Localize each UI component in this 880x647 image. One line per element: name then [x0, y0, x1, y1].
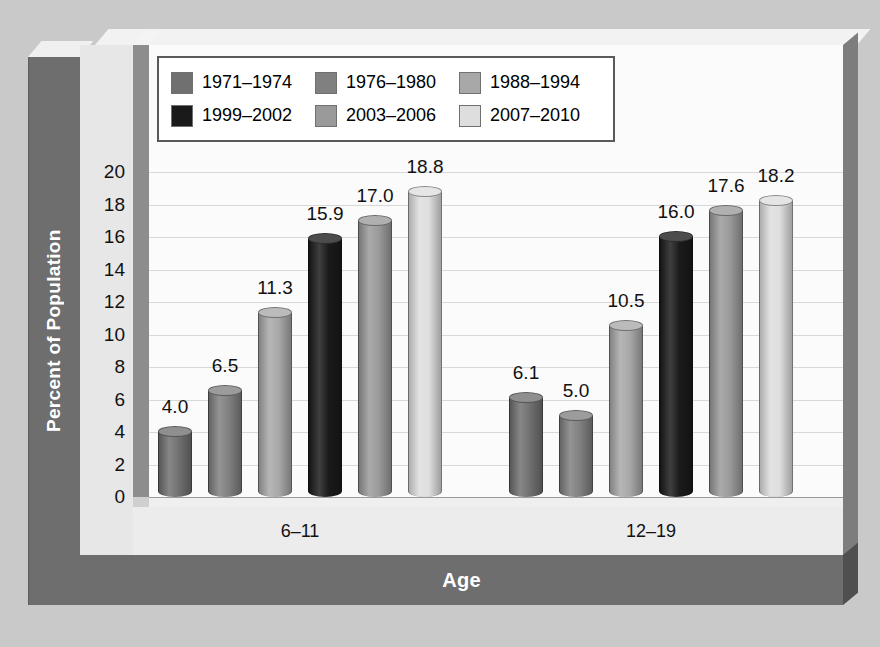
- y-axis-tick-label: 16: [81, 226, 125, 248]
- bar: 6.5: [208, 391, 242, 497]
- bar: 10.5: [609, 326, 643, 497]
- bar: 11.3: [258, 313, 292, 497]
- frame-top-bevel: [95, 29, 870, 45]
- category-axis-band: 6–1112–19: [133, 507, 843, 555]
- y-axis-tick-label: 4: [81, 421, 125, 443]
- bar-body: [659, 237, 693, 497]
- legend-item: 1988–1994: [459, 72, 603, 94]
- bar-cap: [408, 186, 442, 197]
- category-axis-label: 6–11: [281, 521, 320, 542]
- legend-item: 2007–2010: [459, 105, 603, 127]
- y-axis-tick-label: 14: [81, 259, 125, 281]
- legend-item: 1999–2002: [171, 105, 315, 127]
- bar-body: [158, 432, 192, 497]
- bar-cap: [709, 205, 743, 216]
- category-axis-label: 12–19: [626, 521, 676, 542]
- bar-body: [258, 313, 292, 497]
- frame-right-bevel: [843, 32, 858, 605]
- bar-body: [358, 221, 392, 497]
- legend-label: 2003–2006: [346, 105, 436, 126]
- bar-value-label: 5.0: [563, 380, 589, 402]
- bar-value-label: 18.8: [407, 156, 444, 178]
- legend-swatch-icon: [315, 72, 337, 94]
- bar: 17.6: [709, 211, 743, 497]
- bar: 18.2: [759, 201, 793, 497]
- legend-label: 2007–2010: [490, 105, 580, 126]
- bar: 15.9: [308, 239, 342, 497]
- bar-cap: [559, 410, 593, 421]
- legend-label: 1988–1994: [490, 72, 580, 93]
- bar-value-label: 18.2: [758, 165, 795, 187]
- bar: 17.0: [358, 221, 392, 497]
- bar: 4.0: [158, 432, 192, 497]
- bar: 6.1: [509, 398, 543, 497]
- bar-value-label: 17.0: [357, 185, 394, 207]
- bar-cap: [509, 392, 543, 403]
- bar: 16.0: [659, 237, 693, 497]
- legend-row: 1999–20022003–20062007–2010: [171, 99, 603, 132]
- gridline: [149, 172, 843, 173]
- bar-cap: [308, 233, 342, 244]
- bar-value-label: 6.1: [513, 362, 539, 384]
- bar-value-label: 16.0: [658, 201, 695, 223]
- bar: 5.0: [559, 416, 593, 497]
- bar-value-label: 4.0: [162, 396, 188, 418]
- legend-swatch-icon: [459, 72, 481, 94]
- bar-cap: [158, 426, 192, 437]
- legend-label: 1999–2002: [202, 105, 292, 126]
- y-axis-tick-label: 6: [81, 389, 125, 411]
- bar-body: [509, 398, 543, 497]
- bar-body: [609, 326, 643, 497]
- plot-floor-left-wedge: [133, 497, 149, 507]
- bar-body: [709, 211, 743, 497]
- bar-cap: [358, 215, 392, 226]
- legend-row: 1971–19741976–19801988–1994: [171, 66, 603, 99]
- bar-value-label: 6.5: [212, 355, 238, 377]
- plot-wall-strip: [133, 45, 149, 505]
- y-axis-tick-label: 20: [81, 161, 125, 183]
- y-axis-tick-label: 2: [81, 454, 125, 476]
- legend-swatch-icon: [315, 105, 337, 127]
- y-axis-tick-panel: 20181614121086420: [80, 45, 133, 605]
- legend-item: 2003–2006: [315, 105, 459, 127]
- gridline: [149, 205, 843, 206]
- bar-body: [208, 391, 242, 497]
- bar-body: [408, 192, 442, 498]
- bar-cap: [659, 231, 693, 242]
- legend-label: 1976–1980: [346, 72, 436, 93]
- legend-swatch-icon: [459, 105, 481, 127]
- y-axis-tick-label: 18: [81, 194, 125, 216]
- legend-label: 1971–1974: [202, 72, 292, 93]
- bar: 18.8: [408, 192, 442, 498]
- y-axis-tick-label: 0: [81, 486, 125, 508]
- bar-value-label: 15.9: [307, 203, 344, 225]
- chart-canvas: Percent of Population 20181614121086420 …: [0, 0, 880, 647]
- x-axis-title-right-face: [843, 542, 858, 605]
- bar-value-label: 11.3: [257, 277, 293, 299]
- y-axis-tick-label: 8: [81, 356, 125, 378]
- bar-value-label: 10.5: [608, 290, 645, 312]
- bar-body: [759, 201, 793, 497]
- bar-body: [559, 416, 593, 497]
- x-axis-title-band: Age: [80, 555, 843, 605]
- legend: 1971–19741976–19801988–19941999–20022003…: [157, 56, 615, 142]
- legend-swatch-icon: [171, 72, 193, 94]
- legend-swatch-icon: [171, 105, 193, 127]
- legend-item: 1976–1980: [315, 72, 459, 94]
- y-axis-tick-label: 12: [81, 291, 125, 313]
- x-axis-title: Age: [442, 569, 481, 592]
- y-axis-title: Percent of Population: [28, 57, 80, 605]
- bar-value-label: 17.6: [708, 175, 745, 197]
- bar-body: [308, 239, 342, 497]
- y-axis-tick-label: 10: [81, 324, 125, 346]
- legend-item: 1971–1974: [171, 72, 315, 94]
